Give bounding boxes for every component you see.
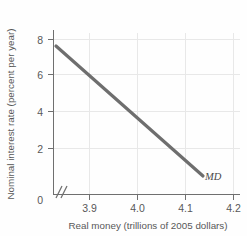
ytick-label-8: 8 <box>37 34 43 46</box>
x-axis-ticks <box>90 195 234 201</box>
x-axis-title: Real money (trillions of 2005 dollars) <box>69 220 228 231</box>
xtick-label-4.0: 4.0 <box>130 202 145 214</box>
ytick-label-0: 0 <box>37 194 43 206</box>
y-axis-ticks <box>48 40 54 149</box>
y-axis-title: Nominal interest rate (percent per year) <box>5 29 16 200</box>
axis-break-mark <box>56 186 67 198</box>
ytick-label-4: 4 <box>37 106 43 118</box>
curve-label-md: MD <box>204 171 222 182</box>
xtick-label-4.2: 4.2 <box>226 202 241 214</box>
chart-canvas: 8 6 4 2 0 3.9 4.0 4.1 4.2 MD Real money … <box>0 0 247 236</box>
grid-lines <box>53 33 240 194</box>
ytick-label-6: 6 <box>37 69 43 81</box>
xtick-label-4.1: 4.1 <box>178 202 193 214</box>
xtick-label-3.9: 3.9 <box>82 202 97 214</box>
ytick-label-2: 2 <box>37 143 43 155</box>
axis-break-slash-1 <box>56 186 62 198</box>
money-demand-chart: 8 6 4 2 0 3.9 4.0 4.1 4.2 MD Real money … <box>0 0 247 236</box>
axis-break-slash-2 <box>61 186 67 198</box>
